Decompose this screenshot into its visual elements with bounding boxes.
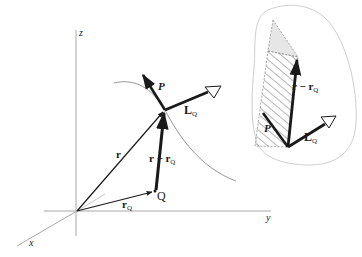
label-P: P [158,80,165,92]
vector-rQ [77,192,152,211]
label-rQ: rQ [122,198,132,212]
inset-label-P: P [264,122,271,134]
diagram-canvas: z y x r rQ r − rQ Q P LQ r − rQ P LQ [0,0,362,257]
y-axis-label: y [265,212,271,223]
label-r: r [116,148,121,160]
z-axis-label: z [78,27,83,38]
x-axis [17,211,77,246]
main-vectors [77,75,221,211]
trajectory-curve [114,82,236,181]
axes: z y x [17,27,271,248]
label-r-minus-rQ: r − rQ [149,152,175,166]
main-labels: r rQ r − rQ Q P LQ [116,80,197,212]
label-LQ: LQ [184,103,197,118]
x-axis-label: x [28,237,34,248]
angular-momentum-diagram: z y x r rQ r − rQ Q P LQ r − rQ P LQ [0,0,362,257]
inset-detail: r − rQ P LQ [252,5,356,165]
faint-direction-line [77,194,105,211]
label-point-Q: Q [157,189,166,203]
